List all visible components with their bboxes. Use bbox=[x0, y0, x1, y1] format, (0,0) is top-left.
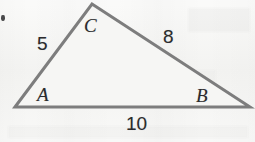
vertex-label-c: C bbox=[84, 16, 97, 35]
side-length-label-ac: 5 bbox=[37, 34, 48, 53]
side-length-label-cb: 8 bbox=[163, 27, 174, 46]
vertex-label-a: A bbox=[37, 85, 49, 104]
vertex-label-b: B bbox=[196, 86, 208, 105]
triangle-outline bbox=[15, 4, 250, 107]
side-length-label-ab: 10 bbox=[126, 114, 147, 133]
triangle-figure: A B C 5 8 10 bbox=[0, 0, 255, 142]
